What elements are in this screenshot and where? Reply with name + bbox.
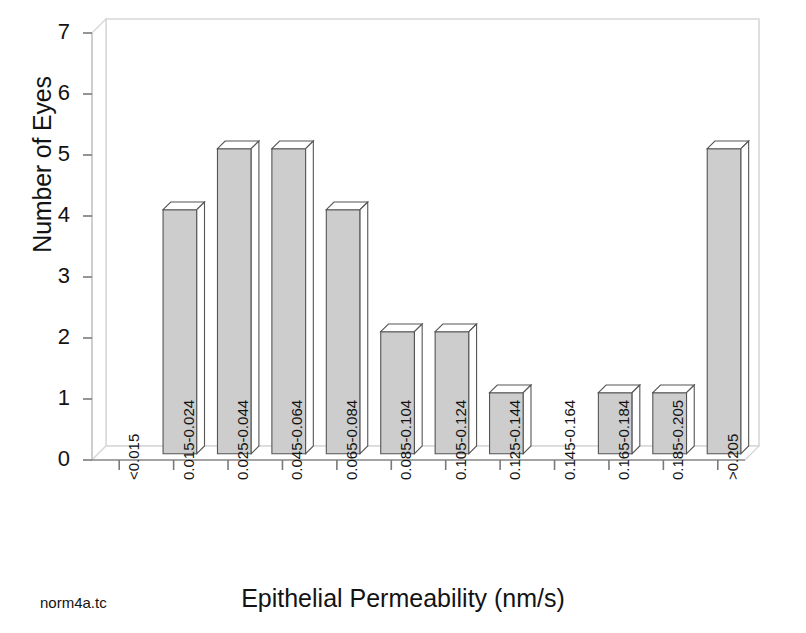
x-axis-tick-label: 0.185-0.205 bbox=[669, 400, 686, 480]
x-axis-tick-label: 0.025-0.044 bbox=[234, 400, 251, 480]
chart-canvas bbox=[0, 0, 806, 633]
bar-front-face bbox=[707, 149, 741, 454]
y-axis-tick-label: 0 bbox=[40, 448, 70, 470]
y-axis-tick-label: 5 bbox=[40, 143, 70, 165]
y-axis-tick-label: 1 bbox=[40, 387, 70, 409]
x-axis-tick-label: >0.205 bbox=[724, 434, 741, 480]
x-axis-tick-label: 0.165-0.184 bbox=[615, 400, 632, 480]
bar-side-face bbox=[469, 324, 477, 454]
bar-side-face bbox=[687, 385, 695, 454]
bar-side-face bbox=[251, 141, 259, 454]
x-axis-title: Epithelial Permeability (nm/s) bbox=[0, 584, 806, 613]
x-axis-tick-label: 0.045-0.064 bbox=[288, 400, 305, 480]
y-axis-tick-label: 4 bbox=[40, 204, 70, 226]
bar-side-face bbox=[523, 385, 531, 454]
x-axis-tick-label: 0.145-0.164 bbox=[561, 400, 578, 480]
x-axis-tick-label: 0.015-0.024 bbox=[180, 400, 197, 480]
x-axis-tick-label: <0.015 bbox=[125, 434, 142, 480]
x-axis-tick-label: 0.105-0.124 bbox=[452, 400, 469, 480]
bar-chart: Number of Eyes 01234567 <0.0150.015-0.02… bbox=[0, 0, 806, 633]
bar-side-face bbox=[306, 141, 314, 454]
x-axis-tick-label: 0.085-0.104 bbox=[397, 400, 414, 480]
bar-side-face bbox=[197, 202, 205, 454]
bar-side-face bbox=[632, 385, 640, 454]
y-axis-tick-label: 6 bbox=[40, 82, 70, 104]
bar-side-face bbox=[414, 324, 422, 454]
figure-caption: norm4a.tc bbox=[40, 594, 107, 611]
y-axis-tick-label: 3 bbox=[40, 265, 70, 287]
y-axis-tick-label: 2 bbox=[40, 326, 70, 348]
y-axis-tick-label: 7 bbox=[40, 21, 70, 43]
x-axis-tick-label: 0.065-0.084 bbox=[343, 400, 360, 480]
bar-side-face bbox=[360, 202, 368, 454]
plot-left-wall bbox=[92, 19, 106, 460]
x-axis-tick-label: 0.125-0.144 bbox=[506, 400, 523, 480]
bar-side-face bbox=[741, 141, 749, 454]
